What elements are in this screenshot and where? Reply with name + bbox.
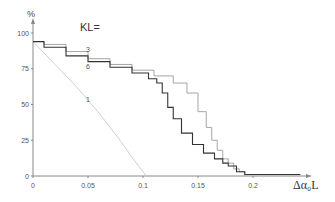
x-tick-label: 0.15 (191, 182, 205, 189)
series-line-6 (33, 42, 300, 175)
chart: 0255075100 00.050.10.150.2 % KL= Δα₀L 13… (0, 0, 335, 202)
series-label-3: 3 (86, 46, 90, 53)
series-group (33, 42, 300, 176)
y-axis-label: % (27, 9, 35, 19)
y-tick-label: 0 (25, 173, 29, 180)
y-tick-label: 25 (21, 137, 29, 144)
series-label-1: 1 (86, 96, 90, 103)
x-tick-label: 0.2 (248, 182, 258, 189)
y-ticks: 0255075100 (17, 30, 33, 180)
y-tick-label: 75 (21, 65, 29, 72)
y-tick-label: 50 (21, 101, 29, 108)
x-tick-label: 0 (31, 182, 35, 189)
x-tick-label: 0.1 (138, 182, 148, 189)
x-tick-label: 0.05 (81, 182, 95, 189)
series-label-6: 6 (86, 63, 90, 70)
x-ticks: 00.050.10.150.2 (31, 176, 258, 189)
axes (31, 18, 312, 178)
y-tick-label: 100 (17, 30, 29, 37)
x-axis-label: Δα₀L (293, 178, 319, 192)
chart-title: KL= (80, 21, 100, 33)
series-line-3 (33, 42, 300, 175)
